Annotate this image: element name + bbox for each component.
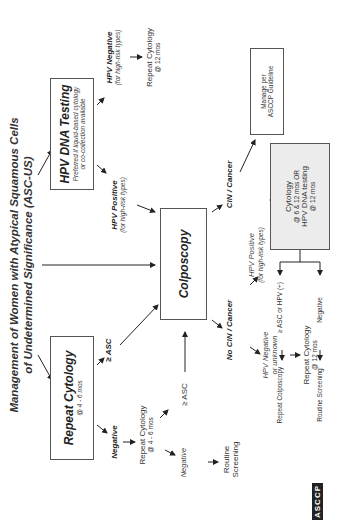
label-hpv-negative-line2: (for high-risk types) xyxy=(114,20,121,95)
colposcopy-box: Colposcopy xyxy=(160,208,207,320)
label-routine-line1: Routine xyxy=(222,437,231,482)
label-repeat-cytology-12: Repeat Cytology @ 12 mos xyxy=(145,25,162,90)
label-asc-or-hpv: ≥ ASC or HPV (+) xyxy=(276,275,283,340)
label-asc-1: ≥ ASC xyxy=(104,335,113,365)
label-hpv-pos2-line1: HPV Positive xyxy=(248,215,257,295)
hpv-testing-sub2: or co-collection available xyxy=(79,98,86,169)
diagram-title-line2: of Undetermined Significance (ASC-US) xyxy=(22,90,35,440)
label-repeat-cytology-2: Repeat Cytology @ 4 - 6 mos xyxy=(138,400,155,470)
repeat-cytology-heading: Repeat Cytology xyxy=(62,351,76,446)
label-no-cin-cancer: No CIN / Cancer xyxy=(225,295,234,365)
label-repeat-cytology-12-line1: Repeat Cytology xyxy=(145,25,154,90)
hpv-dna-testing-box: HPV DNA Testing Preferred if liquid-base… xyxy=(50,78,94,190)
manage-asccp-box: Manage per ASCCP Guideline xyxy=(250,48,284,135)
label-repeat-cytology-12b-line1: Repeat Cytology xyxy=(302,320,311,390)
asccp-logo: ASCCP xyxy=(312,483,323,520)
hpv-testing-heading: HPV DNA Testing xyxy=(58,84,72,183)
label-hpv-positive-2: HPV Positive (for high-risk types) xyxy=(248,215,264,295)
label-negative-2: Negative xyxy=(180,440,189,485)
manage-line1: Manage per xyxy=(260,74,267,109)
label-routine-line2: Screening xyxy=(231,437,240,482)
label-hpv-pos2-line2: (for high-risk types) xyxy=(257,215,264,295)
label-hpv-positive-line1: HPV Positive xyxy=(110,170,119,240)
label-hpv-positive-line2: (for high-risk types) xyxy=(119,170,126,240)
colposcopy-heading: Colposcopy xyxy=(177,230,191,299)
figure-caption-faint xyxy=(350,0,358,530)
label-routine-screening-1: Routine Screening xyxy=(222,437,240,482)
label-hpv-positive: HPV Positive (for high-risk types) xyxy=(110,170,127,240)
label-negative-3: Negative xyxy=(316,285,323,335)
flowchart-canvas: Management of Women with Atypical Squamo… xyxy=(0,0,362,530)
label-cin-cancer: CIN / Cancer xyxy=(225,157,234,212)
label-negative-1: Negative xyxy=(110,422,119,462)
label-routine-screening-2: Routine Screening xyxy=(316,360,323,430)
manage-line2: ASCCP Guideline xyxy=(267,66,274,118)
followup-line1: Cytology xyxy=(284,181,293,212)
followup-cytology-box: Cytology @ 6 & 12 mos OR HPV DNA testing… xyxy=(270,143,330,250)
label-hpv-negative: HPV Negative (for high-risk types) xyxy=(105,20,122,95)
followup-line2: @ 6 & 12 mos OR xyxy=(293,170,300,223)
followup-line4: @ 12 mos xyxy=(309,182,316,212)
hpv-testing-sub1: Preferred if liquid-based cytology xyxy=(72,87,79,182)
label-hpv-negative-line1: HPV Negative xyxy=(105,20,114,95)
label-asc-2: ≥ ASC xyxy=(180,377,189,412)
label-repeat-cytology-2-line1: Repeat Cytology xyxy=(138,400,147,470)
label-repeat-cytology-12-line2: @ 12 mos xyxy=(154,25,161,90)
diagram-title-line1: Management of Women with Atypical Squamo… xyxy=(8,90,21,440)
label-repeat-cytology-2-line2: @ 4 - 6 mos xyxy=(147,400,154,470)
repeat-cytology-box: Repeat Cytology @ 4 - 6 mos xyxy=(50,336,94,460)
label-repeat-colposcopy: Repeat Colposcopy xyxy=(276,360,283,430)
repeat-cytology-sub: @ 4 - 6 mos xyxy=(76,380,83,416)
followup-line3: HPV DNA testing xyxy=(300,166,309,227)
